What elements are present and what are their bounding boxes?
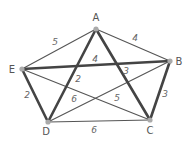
node-A — [93, 26, 98, 31]
node-E — [19, 66, 24, 71]
edge-weight-E-C: 6 — [71, 94, 77, 104]
edge-weight-A-E: 5 — [52, 37, 58, 47]
edge-weight-D-B: 5 — [114, 93, 120, 103]
edge-weight-A-D: 2 — [75, 74, 81, 84]
weighted-graph: 5442323656 ABCDE — [0, 0, 193, 149]
edge-weight-E-D: 2 — [24, 90, 30, 100]
node-label-C: C — [147, 125, 154, 136]
node-label-E: E — [9, 64, 15, 75]
edge-weight-A-C: 3 — [123, 66, 129, 76]
edge-weight-D-C: 6 — [91, 125, 97, 135]
node-C — [147, 117, 152, 122]
edge-E-C — [22, 69, 150, 120]
node-label-A: A — [93, 12, 100, 23]
node-B — [167, 58, 172, 63]
node-label-B: B — [176, 56, 183, 67]
edge-weight-E-B: 4 — [92, 54, 98, 64]
node-D — [45, 119, 50, 124]
edge-weight-B-C: 3 — [162, 89, 168, 99]
node-label-D: D — [42, 126, 50, 137]
edge-weight-A-B: 4 — [132, 33, 138, 43]
edge-D-C — [48, 120, 150, 122]
